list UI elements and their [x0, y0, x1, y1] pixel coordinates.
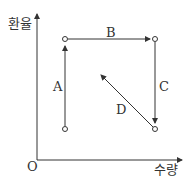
point-bottom-left	[63, 127, 68, 132]
arrow-b-label: B	[106, 26, 116, 39]
arrow-a-label: A	[53, 80, 62, 93]
point-top-right	[153, 37, 158, 42]
y-axis-label: 환율	[8, 17, 32, 30]
point-bottom-right	[153, 127, 158, 132]
point-top-left	[63, 37, 68, 42]
arrow-d-label: D	[116, 103, 126, 116]
x-axis-label: 수량	[154, 163, 178, 176]
arrow-d	[101, 75, 153, 127]
arrow-c-label: C	[159, 80, 169, 93]
origin-label: O	[27, 160, 38, 173]
